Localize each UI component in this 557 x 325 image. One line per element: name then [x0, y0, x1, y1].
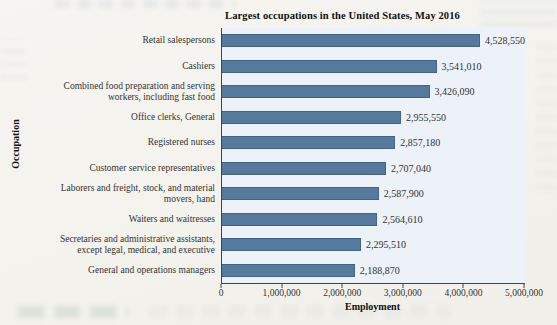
chart-title: Largest occupations in the United States… — [185, 10, 500, 21]
category-label: Cashiers — [0, 54, 215, 80]
bar-value-label: 3,541,010 — [442, 61, 482, 72]
bar-row: 4,528,550 — [222, 28, 525, 54]
bar-row: 2,707,040 — [222, 156, 525, 182]
x-axis-title: Employment — [221, 301, 524, 312]
bar — [222, 34, 480, 47]
category-label: General and operations managers — [0, 258, 215, 284]
category-label: Laborers and freight, stock, and materia… — [0, 181, 215, 207]
category-label: Waiters and waitresses — [0, 207, 215, 233]
x-tick-label: 3,000,000 — [384, 288, 422, 298]
bar — [222, 238, 361, 251]
bar-row: 3,426,090 — [222, 79, 525, 105]
bar-value-label: 2,857,180 — [400, 137, 440, 148]
bar-row: 2,564,610 — [222, 207, 525, 233]
x-tick-label: 2,000,000 — [323, 288, 361, 298]
bar — [222, 111, 401, 124]
bar — [222, 213, 377, 226]
scan-artifact — [55, 0, 235, 8]
bar — [222, 264, 355, 277]
bar-row: 2,587,900 — [222, 181, 525, 207]
bar-row: 2,955,550 — [222, 105, 525, 131]
category-label: Secretaries and administrative assistant… — [0, 232, 215, 258]
bar-value-label: 2,188,870 — [360, 265, 400, 276]
bar-row: 3,541,010 — [222, 54, 525, 80]
bar-value-label: 2,587,900 — [384, 188, 424, 199]
scan-artifact — [536, 40, 557, 190]
x-tick-label: 4,000,000 — [444, 288, 482, 298]
bar-value-label: 2,564,610 — [382, 214, 422, 225]
bar-row: 2,188,870 — [222, 258, 525, 284]
bar — [222, 162, 386, 175]
bar — [222, 85, 430, 98]
category-label: Combined food preparation and serving wo… — [0, 79, 215, 105]
category-label: Registered nurses — [0, 130, 215, 156]
bar-value-label: 3,426,090 — [435, 86, 475, 97]
bar-value-label: 2,707,040 — [391, 163, 431, 174]
scan-artifact — [18, 306, 128, 318]
category-label: Customer service representatives — [0, 156, 215, 182]
x-tick-label: 0 — [219, 288, 224, 298]
category-labels: Retail salespersonsCashiersCombined food… — [0, 28, 215, 283]
bar — [222, 60, 437, 73]
scanned-page: Largest occupations in the United States… — [0, 0, 557, 325]
bar — [222, 187, 379, 200]
bar — [222, 136, 395, 149]
bar-value-label: 2,295,510 — [366, 239, 406, 250]
plot-area: 4,528,5503,541,0103,426,0902,955,5502,85… — [221, 28, 525, 284]
bar-row: 2,295,510 — [222, 232, 525, 258]
category-label: Retail salespersons — [0, 28, 215, 54]
x-tick-label: 1,000,000 — [263, 288, 301, 298]
category-label: Office clerks, General — [0, 105, 215, 131]
bar-value-label: 2,955,550 — [406, 112, 446, 123]
bar-row: 2,857,180 — [222, 130, 525, 156]
x-tick-label: 5,000,000 — [505, 288, 543, 298]
bar-value-label: 4,528,550 — [485, 35, 525, 46]
